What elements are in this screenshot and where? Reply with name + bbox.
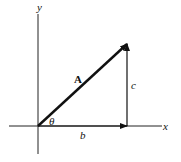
angle-theta-label: θ [49, 115, 55, 127]
vector-a-arrow [38, 44, 127, 126]
y-axis-label: y [36, 1, 42, 13]
component-b-label: b [80, 129, 86, 141]
component-c-label: c [131, 79, 136, 91]
vector-a-label: A [74, 73, 82, 85]
vector-diagram: y x A θ b c [0, 0, 181, 162]
x-axis-label: x [162, 120, 168, 132]
